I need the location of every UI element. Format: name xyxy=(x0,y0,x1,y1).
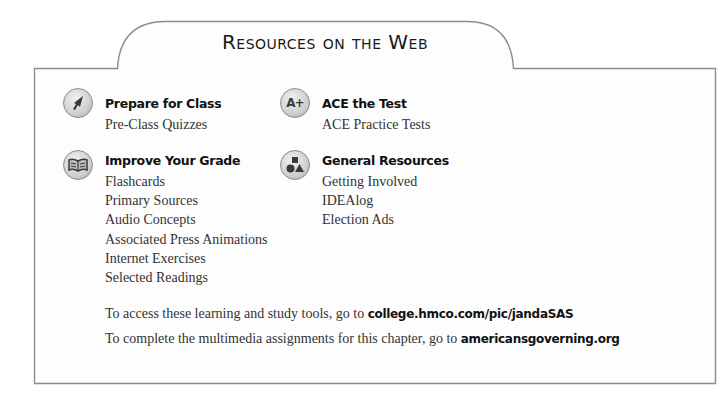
section-heading-general: General Resources xyxy=(322,153,449,168)
resource-link[interactable]: Associated Press Animations xyxy=(105,230,268,249)
assignments-note-text: To complete the multimedia assignments f… xyxy=(105,331,461,346)
link-list-ace: ACE Practice Tests xyxy=(322,115,430,134)
resource-link[interactable]: Internet Exercises xyxy=(105,249,268,268)
shapes-icon xyxy=(280,150,310,180)
access-note-text: To access these learning and study tools… xyxy=(105,306,368,321)
resource-link[interactable]: Primary Sources xyxy=(105,191,268,210)
link-list-general: Getting Involved IDEAlog Election Ads xyxy=(322,172,417,230)
resource-link[interactable]: Election Ads xyxy=(322,210,417,229)
a-plus-icon: A+ xyxy=(280,88,310,118)
resource-link[interactable]: Getting Involved xyxy=(322,172,417,191)
section-heading-ace: ACE the Test xyxy=(322,96,407,111)
a-plus-glyph: A+ xyxy=(286,96,303,110)
assignments-url-link[interactable]: americansgoverning.org xyxy=(461,332,620,346)
resource-link[interactable]: ACE Practice Tests xyxy=(322,115,430,134)
access-url-link[interactable]: college.hmco.com/pic/jandaSAS xyxy=(368,307,574,321)
section-title: Resources on the Web xyxy=(130,30,520,54)
resource-link[interactable]: Flashcards xyxy=(105,172,268,191)
section-heading-prepare: Prepare for Class xyxy=(105,96,221,111)
open-book-icon xyxy=(63,150,93,180)
link-list-improve: Flashcards Primary Sources Audio Concept… xyxy=(105,172,268,287)
resource-link[interactable]: Audio Concepts xyxy=(105,210,268,229)
cursor-arrow-icon xyxy=(63,88,93,118)
section-heading-improve: Improve Your Grade xyxy=(105,153,240,168)
resource-link[interactable]: Selected Readings xyxy=(105,268,268,287)
access-note: To access these learning and study tools… xyxy=(105,306,573,322)
resource-link[interactable]: Pre-Class Quizzes xyxy=(105,115,207,134)
resource-link[interactable]: IDEAlog xyxy=(322,191,417,210)
assignments-note: To complete the multimedia assignments f… xyxy=(105,331,620,347)
link-list-prepare: Pre-Class Quizzes xyxy=(105,115,207,134)
